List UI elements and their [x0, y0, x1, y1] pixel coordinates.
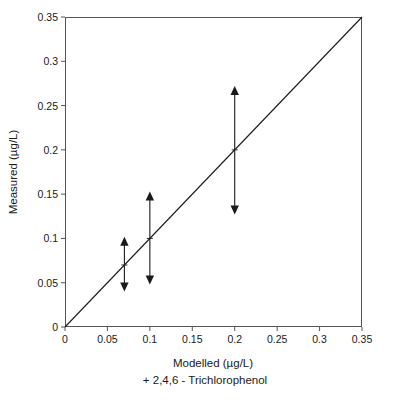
- y-tick-label: 0.1: [43, 233, 58, 244]
- x-tick-label: 0.05: [97, 334, 117, 345]
- x-tick-label: 0.35: [352, 334, 372, 345]
- y-tick-label: 0.15: [38, 189, 58, 200]
- x-tick-label: 0.2: [227, 334, 242, 345]
- y-tick-label: 0.25: [38, 100, 58, 111]
- x-tick-label: 0: [62, 334, 68, 345]
- figure-caption: + 2,4,6 - Trichlorophenol: [143, 374, 267, 386]
- y-tick-label: 0.3: [43, 56, 58, 67]
- y-tick-label: 0: [52, 322, 58, 333]
- y-axis-title: Measured (µg/L): [7, 130, 19, 215]
- plot-area-frame: [65, 17, 362, 327]
- x-tick-label: 0.3: [312, 334, 327, 345]
- y-tick-label: 0.2: [43, 145, 58, 156]
- y-tick-label: 0.05: [38, 277, 58, 288]
- x-axis-tick-marks: [65, 327, 362, 331]
- x-tick-label: 0.25: [267, 334, 287, 345]
- chart-figure: 00.050.10.150.20.250.30.35 00.050.10.150…: [0, 0, 393, 401]
- y-tick-label: 0.35: [38, 12, 58, 23]
- x-tick-label: 0.1: [143, 334, 158, 345]
- x-tick-label: 0.15: [182, 334, 202, 345]
- x-axis-title: Modelled (µg/L): [173, 357, 253, 369]
